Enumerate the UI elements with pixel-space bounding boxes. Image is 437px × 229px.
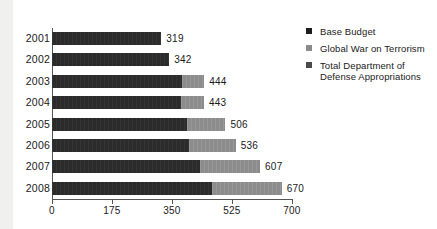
bar-segment-base-budget [52,118,187,131]
bar-segment-gwot [182,75,204,88]
bar-row: 2007607 [0,156,300,177]
bar-segment-base-budget [52,160,200,173]
bar-row: 2005506 [0,114,300,135]
bar-segment-base-budget [52,32,161,45]
stacked-bar [52,139,236,152]
bar-row: 2006536 [0,135,300,156]
x-tick-mark [172,200,173,204]
stacked-bar [52,96,204,109]
legend-swatch-gwot-icon [306,45,312,51]
bar-row: 2003444 [0,71,300,92]
bar-value-label: 319 [166,28,183,49]
bar-segment-gwot [187,118,226,131]
legend-label: Global War on Terrorism [320,43,432,54]
x-tick-label: 175 [103,205,120,216]
y-axis-category-label: 2008 [16,178,50,199]
bar-value-label: 506 [230,114,247,135]
bar-segment-base-budget [52,139,189,152]
stacked-bar [52,75,204,88]
x-tick-mark [112,200,113,204]
chart-legend: Base BudgetGlobal War on TerrorismTotal … [306,26,432,88]
bar-segment-base-budget [52,96,181,109]
bar-segment-base-budget [52,182,212,195]
legend-label: Defense Appropriations [320,71,432,82]
x-tick-label: 525 [223,205,240,216]
legend-item: Global War on Terrorism [306,43,432,54]
y-axis-category-label: 2007 [16,156,50,177]
bar-row: 2001319 [0,28,300,49]
y-axis-category-label: 2002 [16,49,50,70]
y-axis-category-label: 2003 [16,71,50,92]
bar-segment-gwot [212,182,282,195]
legend-swatch-total-icon [306,62,312,68]
x-tick-mark [292,200,293,204]
stacked-bar [52,53,169,66]
x-tick-label: 0 [49,205,55,216]
x-tick-label: 700 [283,205,300,216]
y-axis-category-label: 2006 [16,135,50,156]
bar-row: 2004443 [0,92,300,113]
bar-segment-gwot [189,139,236,152]
y-axis-category-label: 2001 [16,28,50,49]
bar-segment-gwot [181,96,204,109]
stacked-bar [52,160,260,173]
bar-value-label: 670 [287,178,304,199]
bar-value-label: 443 [209,92,226,113]
bar-row: 2008670 [0,178,300,199]
legend-item: Base Budget [306,26,432,37]
bar-value-label: 342 [174,49,191,70]
stacked-bar [52,118,225,131]
bar-value-label: 607 [265,156,282,177]
x-tick-label: 350 [163,205,180,216]
y-axis-category-label: 2005 [16,114,50,135]
bar-segment-gwot [200,160,260,173]
legend-label: Total Department of [320,60,432,71]
bar-segment-base-budget [52,53,169,66]
stacked-bar [52,182,282,195]
y-axis-category-label: 2004 [16,92,50,113]
bar-row: 2002342 [0,49,300,70]
stacked-bar [52,32,161,45]
legend-item: Total Department ofDefense Appropriation… [306,60,432,82]
legend-swatch-base-budget-icon [306,28,312,34]
chart-figure: 0175350525700 20013192002342200344420044… [0,0,437,229]
bar-segment-base-budget [52,75,182,88]
x-tick-mark [232,200,233,204]
bar-value-label: 536 [241,135,258,156]
x-tick-mark [52,200,53,204]
legend-label: Base Budget [320,26,432,37]
bar-value-label: 444 [209,71,226,92]
